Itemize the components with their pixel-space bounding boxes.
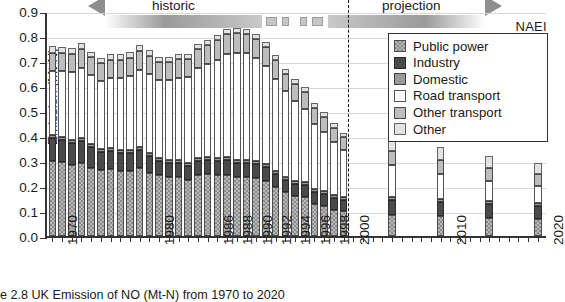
bar-segment-road-transport <box>78 68 86 138</box>
bar-segment-public-power <box>485 218 493 236</box>
bar-1991[interactable] <box>252 34 260 236</box>
bar-2015[interactable] <box>485 156 493 236</box>
bar-1980[interactable] <box>146 50 154 236</box>
legend-label: Domestic <box>413 73 468 86</box>
bar-segment-other-transport <box>214 40 222 60</box>
y-tick-label: 0.2 <box>19 181 38 195</box>
bar-1974[interactable] <box>87 52 95 237</box>
bar-segment-other-transport <box>437 160 445 174</box>
bar-1994[interactable] <box>282 69 290 237</box>
bar-1985[interactable] <box>194 44 202 236</box>
x-tick <box>324 236 325 242</box>
gridline <box>47 13 546 14</box>
x-tick <box>344 236 345 242</box>
bar-segment-road-transport <box>107 78 115 148</box>
y-tick <box>40 213 47 214</box>
bar-1989[interactable] <box>233 28 241 237</box>
bar-1984[interactable] <box>184 54 192 236</box>
bar-segment-industry <box>301 185 309 198</box>
bar-segment-industry <box>204 160 212 174</box>
bar-1973[interactable] <box>78 43 86 236</box>
bar-1981[interactable] <box>155 57 163 237</box>
x-tick <box>208 236 209 242</box>
bar-segment-industry <box>175 163 183 177</box>
bar-segment-road-transport <box>165 80 173 160</box>
bar-segment-road-transport <box>68 72 76 140</box>
bar-segment-road-transport <box>301 109 309 182</box>
bar-segment-other-transport <box>97 63 105 81</box>
bar-2005[interactable] <box>388 136 396 236</box>
bar-segment-road-transport <box>485 181 493 202</box>
legend-label: Other <box>413 123 446 136</box>
legend-item-public-power[interactable]: Public power <box>394 38 543 55</box>
bar-segment-other-transport <box>87 57 95 75</box>
bar-segment-road-transport <box>155 80 163 158</box>
bar-segment-industry <box>233 163 241 177</box>
x-tick <box>188 236 189 242</box>
bar-segment-other-transport <box>68 54 76 73</box>
legend-item-industry[interactable]: Industry <box>394 55 543 72</box>
x-tick <box>528 236 529 242</box>
bar-segment-road-transport <box>49 71 57 135</box>
legend-swatch-icon <box>394 57 406 69</box>
legend-item-domestic[interactable]: Domestic <box>394 71 543 88</box>
bar-segment-industry <box>165 163 173 177</box>
legend-swatch-icon <box>394 90 406 102</box>
legend: Public powerIndustryDomesticRoad transpo… <box>388 33 548 142</box>
bar-segment-industry <box>87 147 95 168</box>
bar-1996[interactable] <box>301 87 309 236</box>
bar-segment-road-transport <box>272 79 280 171</box>
bar-1975[interactable] <box>97 58 105 236</box>
bar-segment-road-transport <box>388 165 396 197</box>
bar-segment-industry <box>252 164 260 178</box>
bar-segment-road-transport <box>291 101 299 181</box>
bar-1983[interactable] <box>175 54 183 236</box>
bar-1995[interactable] <box>291 79 299 236</box>
bar-1987[interactable] <box>214 35 222 236</box>
bar-1970[interactable] <box>49 46 57 236</box>
legend-item-road-transport[interactable]: Road transport <box>394 88 543 105</box>
bar-1986[interactable] <box>204 40 212 237</box>
bar-1978[interactable] <box>126 52 134 236</box>
legend-label: Road transport <box>413 89 500 102</box>
bar-1982[interactable] <box>165 57 173 236</box>
x-tick <box>198 236 199 242</box>
bar-segment-industry <box>282 180 290 193</box>
bar-segment-industry <box>68 143 76 165</box>
bar-2020[interactable] <box>534 163 542 237</box>
x-tick <box>179 236 180 242</box>
legend-item-other[interactable]: Other <box>394 121 543 138</box>
bar-segment-industry <box>214 161 222 175</box>
bar-segment-industry <box>146 156 154 173</box>
bar-1972[interactable] <box>68 48 76 237</box>
bar-segment-other-transport <box>175 59 183 78</box>
bar-1993[interactable] <box>272 55 280 236</box>
projection-divider-line <box>348 0 349 236</box>
legend-item-other-transport[interactable]: Other transport <box>394 104 543 121</box>
y-tick-label: 0.0 <box>19 231 38 245</box>
bar-2010[interactable] <box>437 147 445 236</box>
bar-segment-other-transport <box>146 56 154 75</box>
x-tick <box>295 236 296 242</box>
bar-segment-other <box>437 147 445 160</box>
bar-1992[interactable] <box>262 42 270 237</box>
bar-1977[interactable] <box>117 54 125 236</box>
bar-1988[interactable] <box>223 29 231 236</box>
x-tick <box>480 236 481 242</box>
x-tick <box>392 236 393 242</box>
y-tick-label: 0.4 <box>19 131 38 145</box>
bar-segment-road-transport <box>58 71 66 137</box>
bar-segment-industry <box>330 198 338 210</box>
bar-segment-industry <box>262 167 270 181</box>
bar-segment-public-power <box>437 216 445 236</box>
bar-segment-road-transport <box>330 142 338 195</box>
bar-1971[interactable] <box>58 47 66 236</box>
y-tick <box>40 188 47 189</box>
bar-1990[interactable] <box>243 29 251 236</box>
bar-segment-road-transport <box>117 78 125 150</box>
bar-1979[interactable] <box>136 45 144 236</box>
bar-segment-public-power <box>97 170 105 236</box>
bar-segment-road-transport <box>262 66 270 165</box>
bar-1976[interactable] <box>107 54 115 236</box>
x-tick <box>217 236 218 242</box>
